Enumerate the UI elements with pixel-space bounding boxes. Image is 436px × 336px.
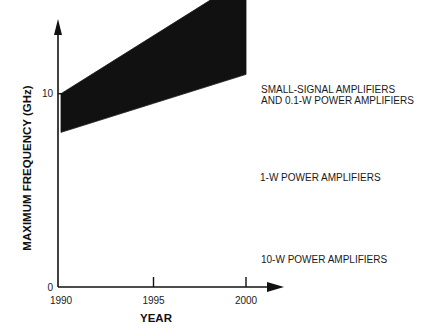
y-axis-title: MAXIMUM FREQUENCY (GHz) [21,85,33,250]
y-tick-label: 10 [42,88,54,99]
series-label-1w: 1-W POWER AMPLIFIERS [260,172,381,183]
x-tick-label: 1995 [142,295,165,306]
x-axis-title: YEAR [140,312,173,324]
series-label-line: AND 0.1-W POWER AMPLIFIERS [261,95,414,106]
series-label-line: SMALL-SIGNAL AMPLIFIERS [261,84,395,95]
frequency-trend-chart: 0102030405060708090100110120 19901995200… [0,0,436,336]
x-tick-label: 1990 [50,295,73,306]
x-tick-label: 2000 [235,295,258,306]
y-tick-label: 0 [47,282,53,293]
series-label-10w: 10-W POWER AMPLIFIERS [261,254,387,265]
series-label-small-signal: SMALL-SIGNAL AMPLIFIERS AND 0.1-W POWER … [261,84,414,106]
